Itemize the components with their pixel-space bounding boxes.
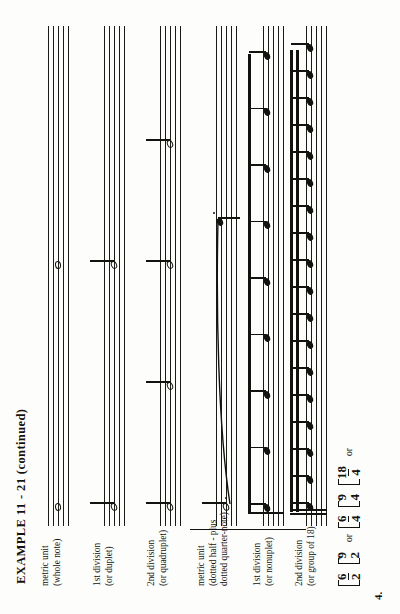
staff-system-1 bbox=[48, 26, 69, 526]
bracket-left-icon bbox=[338, 522, 361, 528]
note-stem bbox=[291, 286, 309, 287]
staff-line bbox=[160, 26, 161, 526]
staff-line bbox=[283, 26, 284, 526]
staff-line bbox=[170, 26, 171, 526]
beam bbox=[248, 54, 251, 512]
label-line: metric unit bbox=[40, 539, 52, 586]
note-stem bbox=[218, 217, 240, 218]
time-signature-row: 6 2 ·· 9 2 or 6 4 ·· 9 4 18 4 or bbox=[332, 447, 366, 586]
note-stem bbox=[291, 151, 309, 152]
note-stem bbox=[291, 367, 309, 368]
staff-line bbox=[63, 26, 64, 526]
staff-line bbox=[326, 26, 327, 526]
staff-line bbox=[278, 26, 279, 526]
staff-line bbox=[236, 26, 237, 526]
note-stem bbox=[291, 340, 309, 341]
staff-line bbox=[109, 26, 110, 526]
note-stem bbox=[291, 394, 309, 395]
staff-system-5 bbox=[263, 26, 284, 526]
note-stem bbox=[291, 421, 309, 422]
tie-slur bbox=[215, 216, 235, 506]
label-second-division-group-18: 2nd division(or group of 18) bbox=[294, 526, 317, 586]
staff-line bbox=[119, 26, 120, 526]
augmentation-dot-icon bbox=[213, 212, 215, 214]
note-stem bbox=[90, 260, 114, 261]
group-barline bbox=[248, 513, 284, 515]
note-stem bbox=[90, 502, 114, 503]
label-second-division-quadruplet: 2nd division(or quadruplet) bbox=[146, 530, 169, 586]
note-stem bbox=[291, 475, 309, 476]
notehead-whole-icon bbox=[54, 260, 61, 269]
note-stem bbox=[291, 448, 309, 449]
note-stem bbox=[291, 502, 309, 503]
label-line: 2nd division bbox=[294, 526, 306, 586]
note-stem bbox=[249, 164, 266, 165]
time-signature-6-4: 6 4 bbox=[336, 512, 363, 529]
note-stem bbox=[291, 205, 309, 206]
staff-line bbox=[104, 26, 105, 526]
item-number: 4. bbox=[372, 592, 384, 600]
note-stem bbox=[146, 381, 170, 382]
staff-system-3 bbox=[160, 26, 181, 526]
note-stem bbox=[249, 390, 266, 391]
staff-line bbox=[48, 26, 49, 526]
numerator: 18 bbox=[336, 466, 349, 479]
sheet-music-page: EXAMPLE 11 - 21 (continued) 4. 6 2 ·· 9 … bbox=[0, 0, 400, 614]
beam-primary bbox=[290, 50, 293, 512]
note-stem bbox=[291, 70, 309, 71]
label-first-division-duplet: 1st division(or duplet) bbox=[92, 543, 115, 586]
or-separator-1: or bbox=[344, 533, 354, 543]
or-separator-2: or bbox=[344, 447, 354, 457]
label-line: (or group of 18) bbox=[306, 526, 318, 586]
bracket-left-icon bbox=[338, 479, 361, 485]
denominator: 4 bbox=[348, 469, 362, 476]
time-signature-9-4: ·· 9 4 bbox=[336, 490, 362, 507]
label-line: (or nonuplet) bbox=[264, 537, 276, 586]
label-line: 1st division bbox=[92, 543, 104, 586]
staff-system-2 bbox=[104, 26, 125, 526]
label-line: 2nd division bbox=[146, 530, 158, 586]
section-divider bbox=[190, 529, 306, 530]
staff-line bbox=[114, 26, 115, 526]
group-barline bbox=[290, 514, 327, 516]
note-stem bbox=[291, 97, 309, 98]
label-line: 1st division bbox=[252, 537, 264, 586]
staff-system-6 bbox=[306, 26, 327, 526]
staff-line bbox=[175, 26, 176, 526]
note-stem bbox=[249, 334, 266, 335]
staff-line bbox=[58, 26, 59, 526]
note-stem bbox=[291, 232, 309, 233]
note-stem bbox=[146, 502, 170, 503]
bracket-left-icon bbox=[338, 580, 361, 586]
note-stem bbox=[249, 277, 266, 278]
staff-line bbox=[180, 26, 181, 526]
note-stem bbox=[249, 221, 266, 222]
note-stem bbox=[291, 259, 309, 260]
staff-line bbox=[68, 26, 69, 526]
time-signature-18-4: 18 4 bbox=[336, 462, 363, 485]
note-stem bbox=[291, 43, 309, 44]
note-stem bbox=[291, 178, 309, 179]
note-stem bbox=[249, 108, 266, 109]
note-stem bbox=[291, 313, 309, 314]
staff-line bbox=[53, 26, 54, 526]
label-first-division-nonuplet: 1st division(or nonuplet) bbox=[252, 537, 275, 586]
note-stem bbox=[249, 51, 266, 52]
staff-line bbox=[316, 26, 317, 526]
label-line: (whole note) bbox=[52, 539, 64, 586]
label-line: (or duplet) bbox=[104, 543, 116, 586]
note-stem bbox=[291, 124, 309, 125]
staff-line bbox=[273, 26, 274, 526]
time-signature-6-2: 6 2 bbox=[336, 570, 363, 587]
note-stem bbox=[249, 447, 266, 448]
note-stem bbox=[146, 260, 170, 261]
notehead-whole-icon bbox=[54, 502, 61, 511]
time-signature-9-2: ·· 9 2 bbox=[336, 548, 362, 565]
beam-secondary bbox=[296, 50, 299, 512]
staff-system-4 bbox=[216, 26, 237, 526]
staff-line bbox=[124, 26, 125, 526]
staff-area bbox=[18, 26, 314, 526]
label-metric-unit-whole: metric unit(whole note) bbox=[40, 539, 63, 586]
colon-dots-icon: ·· bbox=[335, 552, 344, 560]
note-stem bbox=[146, 139, 170, 140]
